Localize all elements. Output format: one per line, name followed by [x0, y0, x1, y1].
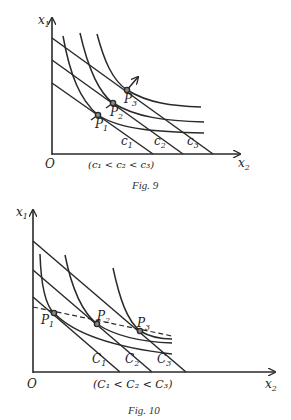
figure-caption: Fig. 9	[131, 179, 159, 191]
figure-10: P1 P2 P3 C1 C2 C3 x1 x2 O (C₁ < C₂ < C₃)…	[16, 205, 277, 416]
label-c1: C1	[92, 352, 106, 368]
indifference-curve-2	[65, 255, 172, 343]
x-axis-label: x2	[238, 156, 250, 172]
diagram-canvas: P1 P2 P3 c1 c2 c3 x1 x2 O (c₁ < c₂ < c₃)…	[0, 0, 291, 420]
label-c3: c3	[187, 134, 199, 150]
origin-label: O	[45, 157, 55, 171]
figure-caption: Fig. 10	[127, 404, 160, 416]
condition-label: (c₁ < c₂ < c₃)	[88, 159, 154, 170]
x-axis-label: x2	[265, 377, 277, 393]
label-c1: c1	[121, 134, 133, 150]
label-c2: C2	[125, 352, 139, 368]
label-p3: P3	[136, 316, 150, 332]
y-axis-label: x1	[16, 205, 28, 221]
y-axis-label: x1	[38, 13, 50, 29]
label-p2: P2	[96, 309, 110, 325]
indifference-curve-3	[97, 34, 201, 107]
label-c2: c2	[154, 134, 166, 150]
indifference-curve-2	[80, 33, 204, 122]
point-p1	[51, 310, 56, 315]
condition-label: (C₁ < C₂ < C₃)	[93, 378, 172, 391]
origin-label: O	[27, 377, 37, 391]
figure-9: P1 P2 P3 c1 c2 c3 x1 x2 O (c₁ < c₂ < c₃)…	[38, 13, 250, 191]
